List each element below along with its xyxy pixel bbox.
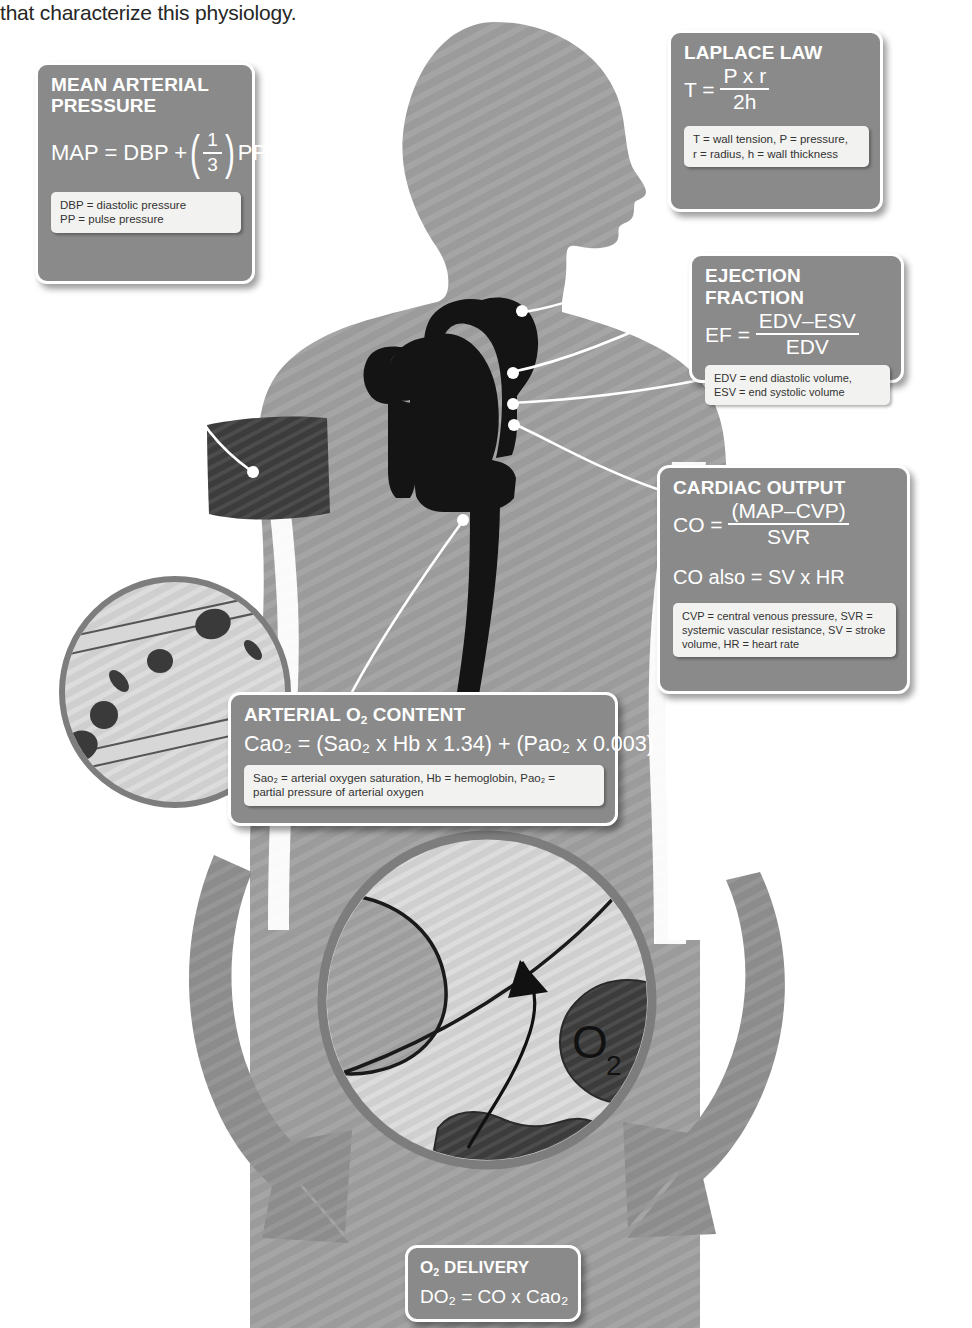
fraction-denominator: 2h bbox=[720, 90, 769, 113]
fraction-numerator: 1 bbox=[203, 130, 222, 154]
legend-line: systemic vascular resistance, SV = strok… bbox=[682, 623, 888, 637]
card-legend: DBP = diastolic pressure PP = pulse pres… bbox=[51, 192, 241, 233]
legend-line: volume, HR = heart rate bbox=[682, 637, 888, 651]
legend-line: CVP = central venous pressure, SVR = bbox=[682, 609, 888, 623]
card-legend: T = wall tension, P = pressure, r = radi… bbox=[684, 126, 869, 167]
card-title: MEAN ARTERIAL PRESSURE bbox=[51, 74, 241, 116]
intro-caption: that characterize this physiology. bbox=[0, 0, 420, 26]
fraction-denominator: EDV bbox=[756, 335, 859, 358]
formula-card-ejection-fraction[interactable]: EJECTION FRACTION EF = EDV–ESV EDV EDV =… bbox=[689, 253, 904, 383]
card-legend: EDV = end diastolic volume, ESV = end sy… bbox=[705, 365, 890, 405]
formula-lhs: EF = bbox=[705, 322, 750, 347]
card-legend: Sao₂ = arterial oxygen saturation, Hb = … bbox=[244, 765, 604, 806]
card-title: ARTERIAL O2 CONTENT bbox=[244, 704, 604, 731]
fraction-numerator: EDV–ESV bbox=[756, 310, 859, 335]
card-formula: Cao₂ = (Sao₂ x Hb x 1.34) + (Pao₂ x 0.00… bbox=[244, 732, 604, 757]
right-paren: ) bbox=[225, 134, 235, 171]
card-formula: DO₂ = CO x Cao₂ bbox=[420, 1284, 566, 1309]
formula-card-o2-delivery[interactable]: O2 DELIVERY DO₂ = CO x Cao₂ bbox=[405, 1245, 581, 1322]
legend-line: EDV = end diastolic volume, bbox=[714, 371, 882, 385]
title-part: ARTERIAL O bbox=[244, 704, 361, 725]
formula-fraction: EDV–ESV EDV bbox=[756, 310, 859, 358]
card-formula: EF = EDV–ESV EDV bbox=[705, 310, 890, 358]
formula-fraction: (MAP–CVP) SVR bbox=[728, 500, 848, 548]
legend-line: PP = pulse pressure bbox=[60, 212, 233, 227]
card-formula-alt: CO also = SV x HR bbox=[673, 566, 896, 589]
formula-card-mean-arterial-pressure[interactable]: MEAN ARTERIAL PRESSURE MAP = DBP + ( 1 3… bbox=[35, 62, 255, 284]
card-title: LAPLACE LAW bbox=[684, 42, 869, 64]
fraction-denominator: 3 bbox=[203, 154, 222, 176]
legend-line: DBP = diastolic pressure bbox=[60, 198, 233, 213]
formula-fraction: ( 1 3 ) bbox=[187, 130, 238, 176]
left-paren: ( bbox=[190, 134, 200, 171]
card-formula: T = P x r 2h bbox=[684, 65, 869, 113]
fraction-numerator: (MAP–CVP) bbox=[728, 500, 848, 525]
svg-text:2: 2 bbox=[606, 1050, 622, 1081]
formula-lhs: MAP = DBP + bbox=[51, 140, 187, 165]
card-legend: CVP = central venous pressure, SVR = sys… bbox=[673, 603, 896, 657]
card-title: CARDIAC OUTPUT bbox=[673, 477, 896, 499]
legend-line: partial pressure of arterial oxygen bbox=[253, 785, 596, 800]
legend-line: r = radius, h = wall thickness bbox=[693, 147, 861, 162]
legend-line: Sao₂ = arterial oxygen saturation, Hb = … bbox=[253, 771, 596, 786]
card-formula: CO = (MAP–CVP) SVR bbox=[673, 500, 896, 548]
formula-card-cardiac-output[interactable]: CARDIAC OUTPUT CO = (MAP–CVP) SVR CO als… bbox=[657, 465, 910, 694]
legend-line: ESV = end systolic volume bbox=[714, 385, 882, 399]
formula-rhs: PP bbox=[238, 140, 267, 165]
title-part: CONTENT bbox=[367, 704, 465, 725]
formula-lhs: CO = bbox=[673, 512, 723, 537]
card-title: EJECTION FRACTION bbox=[705, 265, 890, 309]
formula-lhs: T = bbox=[684, 77, 715, 102]
fraction-denominator: SVR bbox=[728, 525, 848, 548]
formula-card-laplace-law[interactable]: LAPLACE LAW T = P x r 2h T = wall tensio… bbox=[668, 30, 883, 212]
card-title: O2 DELIVERY bbox=[420, 1258, 566, 1282]
infographic-page: O 2 that characterize this physiology. M… bbox=[0, 0, 972, 1328]
card-formula: MAP = DBP + ( 1 3 ) PP bbox=[51, 130, 241, 176]
bp-cuff bbox=[207, 416, 330, 519]
title-part: DELIVERY bbox=[439, 1258, 529, 1277]
formula-card-arterial-o2-content[interactable]: ARTERIAL O2 CONTENT Cao₂ = (Sao₂ x Hb x … bbox=[228, 692, 618, 826]
formula-fraction: P x r 2h bbox=[720, 65, 769, 113]
title-part: O bbox=[420, 1258, 433, 1277]
svg-text:O: O bbox=[572, 1016, 608, 1068]
fraction-numerator: P x r bbox=[720, 65, 769, 90]
legend-line: T = wall tension, P = pressure, bbox=[693, 132, 861, 147]
